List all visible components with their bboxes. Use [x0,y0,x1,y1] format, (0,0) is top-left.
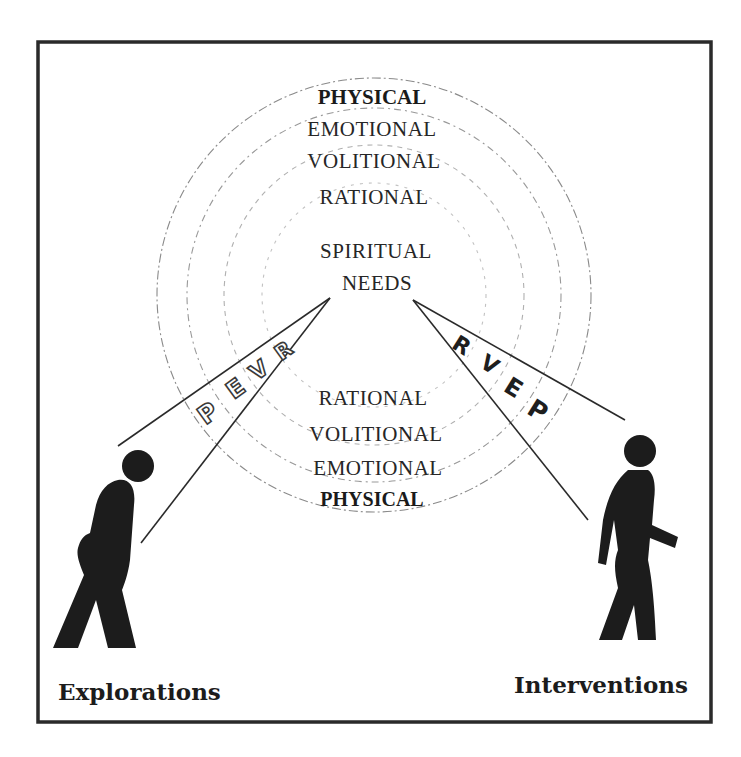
label-physical-top: PHYSICAL [318,85,427,109]
label-volitional-top: VOLITIONAL [307,149,440,173]
label-emotional-bottom: EMOTIONAL [313,456,442,480]
label-volitional-bottom: VOLITIONAL [309,422,442,446]
label-physical-bottom: PHYSICAL [320,488,423,510]
caption-explorations: Explorations [58,678,221,705]
label-needs: NEEDS [342,271,412,295]
spiritual-needs-diagram: PHYSICAL EMOTIONAL VOLITIONAL RATIONAL S… [0,0,741,757]
label-rational-top: RATIONAL [320,185,429,209]
right-figure-head [624,435,656,467]
left-figure-head [122,450,154,482]
label-emotional-top: EMOTIONAL [307,117,436,141]
caption-interventions: Interventions [514,671,688,698]
label-spiritual: SPIRITUAL [320,239,432,263]
label-rational-bottom: RATIONAL [319,386,428,410]
